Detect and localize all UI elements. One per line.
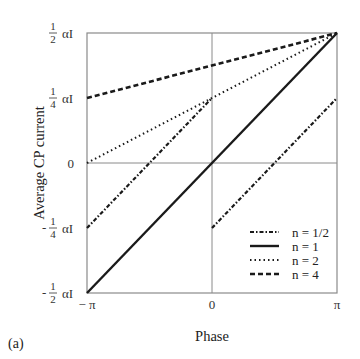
y-axis-title: Average CP current	[31, 106, 47, 220]
legend-item: n = 1	[250, 239, 319, 254]
svg-text:2: 2	[50, 33, 56, 45]
panel-label: (a)	[8, 336, 24, 352]
svg-text:αI: αI	[62, 286, 73, 301]
svg-text:n = 4: n = 4	[292, 267, 319, 282]
svg-text:4: 4	[50, 98, 56, 110]
y-tick-label: 14αI	[49, 85, 73, 110]
svg-text:n = 1: n = 1	[292, 239, 319, 254]
svg-text:4: 4	[50, 228, 56, 240]
svg-text:2: 2	[50, 293, 56, 305]
chart: 12αI14αI0-14αI-12αI − π0π Phase Average …	[0, 0, 360, 359]
legend: n = 1/2n = 1n = 2n = 4	[250, 225, 329, 282]
svg-text:-: -	[42, 285, 46, 300]
y-tick-label: 0	[68, 156, 75, 171]
x-tick-label: − π	[78, 297, 96, 312]
x-tick-label: 0	[209, 297, 216, 312]
svg-text:n = 2: n = 2	[292, 253, 319, 268]
x-axis-title: Phase	[195, 328, 229, 344]
x-tick-labels: − π0π	[78, 297, 340, 312]
svg-text:1: 1	[50, 280, 56, 292]
svg-text:αI: αI	[62, 91, 73, 106]
legend-item: n = 2	[250, 253, 319, 268]
svg-text:n = 1/2: n = 1/2	[292, 225, 329, 240]
svg-text:αI: αI	[62, 26, 73, 41]
svg-text:αI: αI	[62, 221, 73, 236]
svg-text:1: 1	[50, 85, 56, 97]
svg-text:1: 1	[50, 215, 56, 227]
legend-item: n = 4	[250, 267, 319, 282]
svg-text:-: -	[42, 220, 46, 235]
y-tick-label: 12αI	[49, 20, 73, 45]
y-tick-label: -12αI	[42, 280, 73, 305]
x-tick-label: π	[334, 297, 341, 312]
legend-item: n = 1/2	[250, 225, 329, 240]
svg-text:1: 1	[50, 20, 56, 32]
